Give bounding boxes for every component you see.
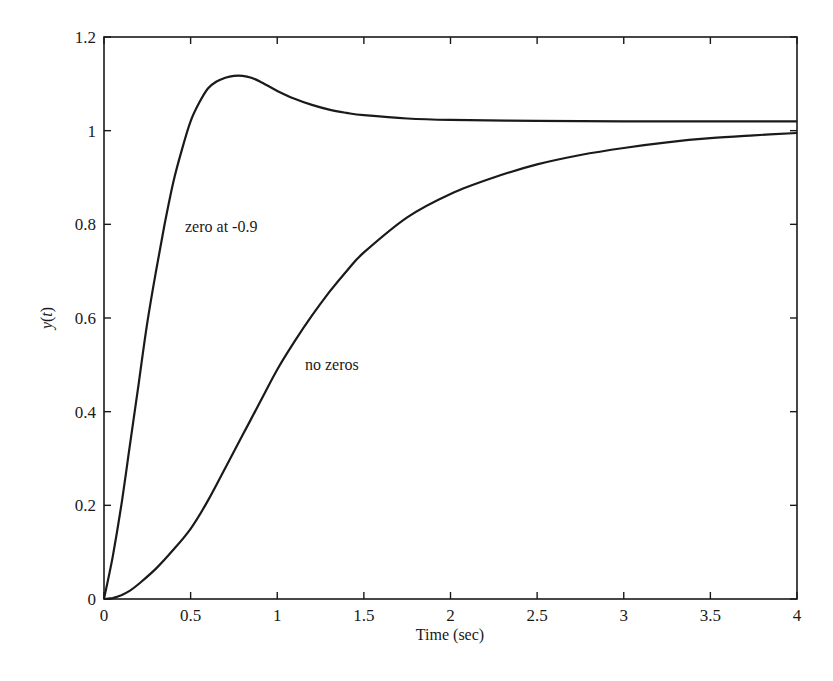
x-tick-label: 3 xyxy=(620,606,629,625)
x-tick-label: 3.5 xyxy=(700,606,721,625)
y-tick-label: 0.2 xyxy=(75,496,96,515)
x-tick-label: 0 xyxy=(100,606,109,625)
y-tick-label: 0.8 xyxy=(75,215,96,234)
y-tick-label: 1 xyxy=(88,122,97,141)
series-line-zero-at-0-9 xyxy=(104,76,797,599)
x-tick-label: 4 xyxy=(793,606,802,625)
annotation-zero-at-minus-0-9: zero at -0.9 xyxy=(185,218,257,235)
x-tick-label: 1 xyxy=(273,606,282,625)
x-tick-label: 1.5 xyxy=(353,606,374,625)
step-response-chart: 00.511.522.533.54 00.20.40.60.811.2 Time… xyxy=(0,0,833,681)
chart-svg: 00.511.522.533.54 00.20.40.60.811.2 Time… xyxy=(0,0,833,681)
x-tick-label: 2 xyxy=(446,606,455,625)
series-line-no-zeros xyxy=(104,133,797,599)
y-axis-ticks: 00.20.40.60.811.2 xyxy=(75,28,797,609)
y-tick-label: 1.2 xyxy=(75,28,96,47)
x-tick-label: 2.5 xyxy=(527,606,548,625)
y-tick-label: 0.6 xyxy=(75,309,96,328)
y-axis-label: y(t) xyxy=(38,307,56,331)
series-lines xyxy=(104,76,797,599)
y-tick-label: 0 xyxy=(88,590,97,609)
x-tick-label: 0.5 xyxy=(180,606,201,625)
x-axis-ticks: 00.511.522.533.54 xyxy=(100,37,802,625)
y-tick-label: 0.4 xyxy=(75,403,97,422)
x-axis-label: Time (sec) xyxy=(416,626,484,644)
annotation-no-zeros: no zeros xyxy=(305,356,359,373)
